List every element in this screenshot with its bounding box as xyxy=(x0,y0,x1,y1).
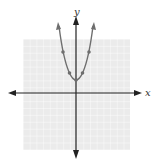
point-neg2-6 xyxy=(61,50,65,54)
point-1-3 xyxy=(81,71,85,75)
point-neg1-3 xyxy=(68,71,72,75)
graph: x y xyxy=(0,0,151,163)
x-axis-label: x xyxy=(145,87,151,98)
x-axis-right-arrow-icon xyxy=(134,90,142,96)
y-axis-up-arrow-icon xyxy=(73,16,79,25)
curve-left-arrow-icon xyxy=(56,22,61,30)
curve-right-arrow-icon xyxy=(91,22,96,30)
y-axis-label: y xyxy=(73,6,80,17)
y-axis-down-arrow-icon xyxy=(73,150,79,159)
vertex-point-0-2 xyxy=(74,78,78,82)
x-axis-left-arrow-icon xyxy=(8,90,16,96)
point-2-6 xyxy=(87,50,91,54)
